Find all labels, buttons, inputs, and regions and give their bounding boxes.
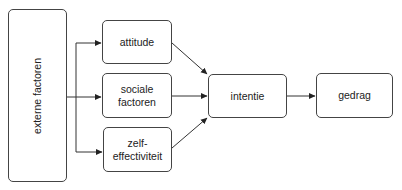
node-label-line2: effectiviteit (113, 150, 162, 163)
node-label-line1: sociale (121, 83, 154, 96)
node-sociale-factoren: sociale factoren (102, 73, 172, 118)
node-label-line1: zelf- (128, 137, 148, 150)
node-label: attitude (120, 36, 154, 49)
node-label: intentie (231, 90, 265, 103)
node-zelf-effectiviteit: zelf- effectiviteit (103, 127, 172, 172)
arrow-attitude-intentie (172, 43, 207, 74)
node-label-line2: factoren (118, 96, 156, 109)
node-gedrag: gedrag (316, 73, 393, 118)
node-intentie: intentie (208, 74, 287, 118)
node-label: gedrag (338, 89, 371, 102)
node-label: externe factoren (31, 58, 44, 134)
node-attitude: attitude (102, 20, 172, 64)
node-externe-factoren: externe factoren (8, 9, 67, 182)
arrow-zelf-intentie (172, 118, 207, 148)
